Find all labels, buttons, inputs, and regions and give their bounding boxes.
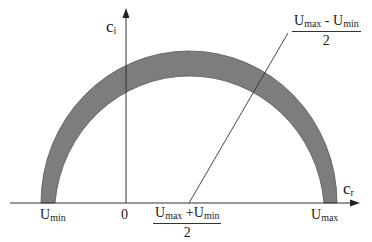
real-axis-label-main: c	[343, 179, 351, 198]
real-axis-arrow-icon	[350, 200, 360, 207]
imaginary-axis-label-main: c	[106, 17, 114, 36]
imaginary-axis-arrow-icon	[123, 8, 130, 18]
u-min-main: U	[40, 207, 50, 222]
real-axis-label-sub: r	[351, 187, 354, 198]
radius-fraction: Umax - Umin 2	[292, 14, 361, 48]
imaginary-axis-label-sub: i	[114, 25, 117, 36]
u-max-main: U	[311, 207, 321, 222]
u-min-sub: min	[50, 212, 66, 223]
u-max-label: Umax	[311, 208, 338, 223]
semicircular-band	[41, 51, 337, 203]
center-fraction: Umax +Umin 2	[153, 206, 221, 240]
center-numerator: Umax +Umin	[153, 206, 221, 224]
origin-label: 0	[121, 208, 128, 222]
u-max-sub: max	[321, 212, 338, 223]
u-min-label: Umin	[40, 208, 66, 223]
radius-denominator: 2	[292, 32, 361, 48]
real-axis-label: cr	[343, 180, 354, 198]
imaginary-axis-label: ci	[106, 18, 116, 36]
center-denominator: 2	[153, 224, 221, 240]
radius-numerator: Umax - Umin	[292, 14, 361, 32]
